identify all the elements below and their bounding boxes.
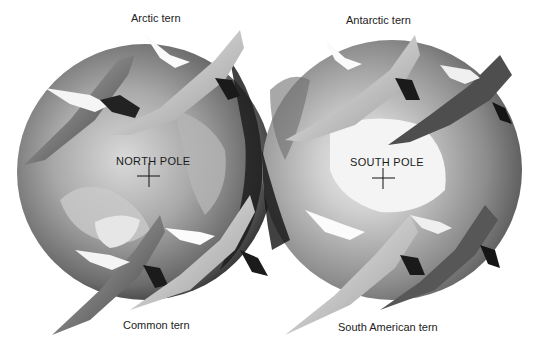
antarctic-tern-label: Antarctic tern	[346, 14, 411, 26]
tern-migration-illustration: Arctic tern Antarctic tern Common tern S…	[0, 0, 534, 351]
arctic-tern-label: Arctic tern	[131, 12, 181, 24]
globes-drawing	[0, 0, 534, 351]
south-american-tern-label: South American tern	[338, 321, 438, 333]
south-pole-label: SOUTH POLE	[350, 156, 424, 168]
north-pole-label: NORTH POLE	[116, 155, 190, 167]
common-tern-label: Common tern	[123, 319, 190, 331]
